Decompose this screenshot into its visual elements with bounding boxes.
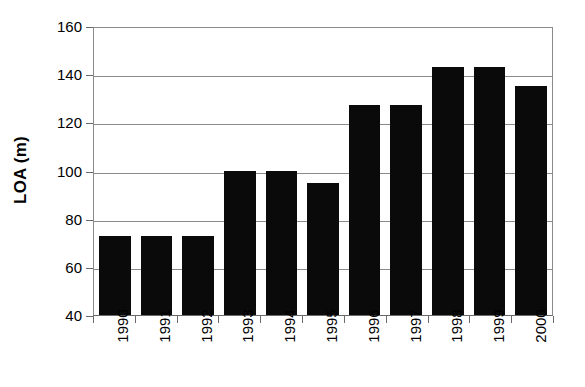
x-axis-label-slot: 1994 (260, 322, 302, 384)
x-axis-labels: 1990199119921993199419951996199719981999… (93, 322, 553, 384)
bar-slot (385, 28, 427, 315)
x-axis-label-slot: 1992 (177, 322, 219, 384)
x-axis-tick-label: 2000 (532, 309, 549, 342)
y-axis-tick-label: 160 (38, 19, 82, 34)
y-axis-tick-label: 140 (38, 67, 82, 82)
y-axis-tick-label: 40 (38, 308, 82, 323)
bar-chart: LOA (m) 406080100120140160 1990199119921… (0, 0, 585, 387)
bar-slot (469, 28, 511, 315)
y-axis-title-text: LOA (m) (11, 136, 31, 204)
y-axis-tick-label: 120 (38, 115, 82, 130)
x-axis-label-slot: 1991 (135, 322, 177, 384)
bar-1994 (266, 171, 298, 316)
x-axis-label-slot: 2000 (511, 322, 553, 384)
bar-1993 (224, 171, 256, 316)
y-axis-tick-label: 80 (38, 212, 82, 227)
bar-1997 (390, 105, 422, 315)
x-axis-label-slot: 1995 (302, 322, 344, 384)
bar-slot (510, 28, 552, 315)
bar-2000 (515, 86, 547, 315)
bar-slot (136, 28, 178, 315)
bar-1990 (99, 236, 131, 315)
bar-1999 (474, 67, 506, 315)
x-axis-tick-label: 1999 (490, 309, 507, 342)
bar-slot (302, 28, 344, 315)
x-axis-tick-label: 1996 (365, 309, 382, 342)
x-axis-tick-label: 1995 (323, 309, 340, 342)
bars-layer (94, 28, 552, 315)
x-axis-label-slot: 1993 (218, 322, 260, 384)
bar-slot (219, 28, 261, 315)
bar-1996 (349, 105, 381, 315)
x-axis-label-slot: 1999 (469, 322, 511, 384)
x-axis-label-slot: 1996 (344, 322, 386, 384)
plot-area (93, 27, 553, 316)
x-axis-tick (553, 316, 554, 323)
bar-slot (94, 28, 136, 315)
y-axis-title: LOA (m) (6, 60, 36, 280)
x-axis-tick-label: 1997 (407, 309, 424, 342)
x-axis-tick-label: 1994 (281, 309, 298, 342)
bar-1991 (141, 236, 173, 315)
y-axis-tick-label: 100 (38, 164, 82, 179)
x-axis-tick-label: 1992 (198, 309, 215, 342)
x-axis-tick-label: 1998 (448, 309, 465, 342)
bar-1998 (432, 67, 464, 315)
x-axis-label-slot: 1998 (428, 322, 470, 384)
bar-1992 (182, 236, 214, 315)
bar-slot (261, 28, 303, 315)
bar-slot (427, 28, 469, 315)
x-axis-tick-label: 1990 (114, 309, 131, 342)
x-axis-label-slot: 1997 (386, 322, 428, 384)
bar-slot (177, 28, 219, 315)
y-axis-tick-label: 60 (38, 260, 82, 275)
bar-1995 (307, 183, 339, 315)
x-axis-label-slot: 1990 (93, 322, 135, 384)
x-axis-tick-label: 1993 (239, 309, 256, 342)
x-axis-tick-label: 1991 (156, 309, 173, 342)
bar-slot (344, 28, 386, 315)
